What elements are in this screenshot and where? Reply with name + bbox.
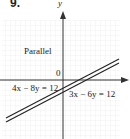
y-axis-arrow-icon <box>60 11 66 19</box>
graph <box>0 0 130 139</box>
origin-label: 0 <box>56 68 61 78</box>
equation-label-1: 4x − 8y = 12 <box>12 83 58 93</box>
y-axis-label: y <box>58 0 62 8</box>
grid-background <box>2 20 120 138</box>
equation-label-2: 3x − 6y = 12 <box>69 89 115 99</box>
x-axis-arrow-icon <box>121 77 129 83</box>
parallel-annotation: Parallel <box>24 46 52 56</box>
